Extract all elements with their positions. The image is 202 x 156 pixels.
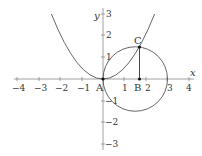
y-tick-label: 3 xyxy=(106,9,112,19)
y-tick-label: −2 xyxy=(105,117,118,127)
point-a-label: A xyxy=(95,82,104,93)
x-tick-label: 1 xyxy=(122,83,128,93)
x-tick-label: −4 xyxy=(12,83,26,93)
x-tick-label: −2 xyxy=(55,83,68,93)
x-tick-label: 2 xyxy=(145,83,151,93)
x-tick-label: 3 xyxy=(167,83,173,93)
x-tick-label: −1 xyxy=(77,83,90,93)
y-tick-label: −3 xyxy=(105,139,119,149)
x-tick-label: −3 xyxy=(34,83,48,93)
x-axis-label: x xyxy=(190,67,196,78)
y-axis-label: y xyxy=(93,10,100,21)
point-b xyxy=(138,77,141,80)
diagram-canvas: −4 −3 −2 −1 1 2 3 4 1 2 3 −1 −2 −3 x y A… xyxy=(0,0,202,156)
y-tick-label: 2 xyxy=(106,30,112,40)
point-b-label: B xyxy=(134,82,141,93)
point-c-label: C xyxy=(134,35,142,46)
point-a xyxy=(101,77,104,80)
x-tick-label: 4 xyxy=(186,83,192,93)
